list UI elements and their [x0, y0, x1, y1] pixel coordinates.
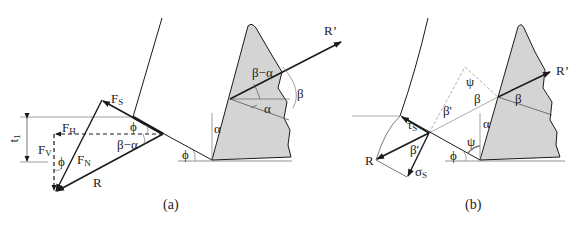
label-r-prime-b: R’: [556, 64, 569, 77]
label-beta-alpha-tool: β−α: [252, 66, 273, 79]
label-beta-prime-lower: β': [410, 143, 419, 156]
label-fv: FV: [38, 143, 52, 158]
label-phi-ground-a: ϕ: [182, 148, 189, 161]
label-fh: FH: [62, 121, 76, 136]
r-arrow-a: [57, 134, 163, 191]
label-phi-top-a: ϕ: [130, 120, 137, 133]
label-tau: τS: [407, 118, 417, 133]
cutting-force-diagram: [0, 0, 578, 225]
chip-curve-b: [400, 18, 428, 116]
label-alpha-b: α: [483, 117, 490, 130]
tool-wedge-a: [212, 24, 291, 160]
label-t1: t1: [7, 134, 22, 142]
label-beta-alpha-tri: β−α: [117, 138, 138, 151]
label-beta-mid: β: [474, 92, 481, 105]
label-fn: FN: [77, 153, 91, 168]
label-r-b: R: [365, 154, 374, 167]
label-beta-tool-b: β: [515, 92, 522, 105]
label-fs: FS: [111, 92, 123, 107]
phi-arc-ground-a: [193, 150, 195, 161]
label-beta-prime-upper: β': [443, 104, 452, 117]
label-phi-left-a: ϕ: [58, 155, 65, 168]
parallelogram-side: [376, 160, 407, 177]
chip-line-a: [133, 18, 162, 117]
label-sigma: σS: [415, 165, 427, 180]
label-phi-b: ϕ: [450, 149, 457, 162]
label-alpha-tool: α: [264, 102, 271, 115]
caption-a: (a): [163, 198, 179, 212]
panel-b: [352, 18, 565, 177]
phi-arc-b: [464, 152, 466, 161]
label-r-a: R: [93, 176, 102, 189]
label-psi-low: ψ: [467, 135, 475, 148]
construction-dashed-1: [429, 67, 465, 133]
caption-b: (b): [465, 198, 481, 212]
panel-a: [20, 18, 341, 191]
beta-alpha-arc-tri: [143, 134, 145, 144]
label-beta-tool-a: β: [297, 87, 304, 100]
label-alpha-rake-a: α: [214, 122, 221, 135]
label-r-prime-a: R’: [324, 24, 337, 37]
label-psi-top: ψ: [466, 75, 474, 88]
